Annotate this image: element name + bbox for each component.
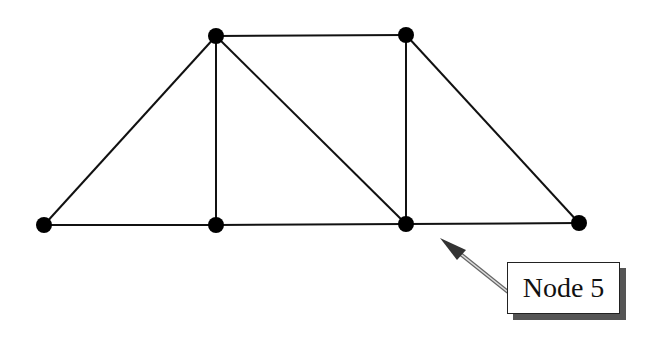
node-4 (398, 27, 414, 43)
member-3-4 (216, 35, 406, 36)
node-2 (208, 217, 224, 233)
node-5-callout-label: Node 5 (507, 262, 620, 314)
truss-members (44, 35, 579, 225)
node-6 (571, 215, 587, 231)
member-3-5 (216, 36, 406, 224)
callout-arrow-icon (440, 238, 508, 292)
member-2-5 (216, 224, 406, 225)
node-1 (36, 217, 52, 233)
member-5-6 (406, 223, 579, 224)
member-1-3 (44, 36, 216, 225)
member-4-6 (406, 35, 579, 223)
node-5 (398, 216, 414, 232)
node-3 (208, 28, 224, 44)
